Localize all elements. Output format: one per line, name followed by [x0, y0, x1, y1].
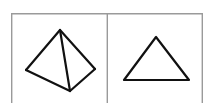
right-panel-region	[108, 14, 202, 103]
figure-canvas	[0, 0, 212, 103]
figure-container	[0, 0, 212, 103]
left-panel-pyramid-group	[12, 14, 107, 103]
left-panel-region	[12, 14, 107, 103]
right-panel-triangle-group	[108, 14, 202, 103]
